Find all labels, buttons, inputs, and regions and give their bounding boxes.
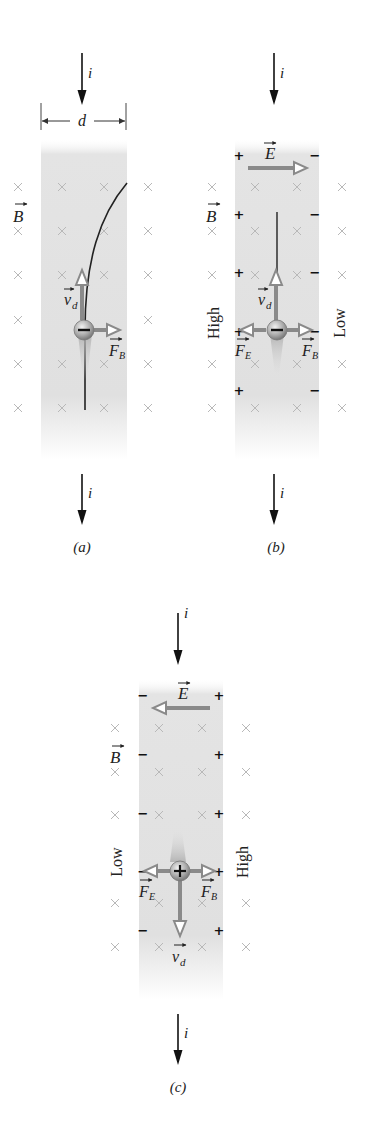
potential-label-high: High <box>205 307 223 339</box>
svg-text:F: F <box>301 342 312 359</box>
svg-text:−: − <box>310 265 321 280</box>
svg-text:+: + <box>234 148 245 163</box>
svg-text:B: B <box>206 207 217 226</box>
svg-text:i: i <box>280 485 284 501</box>
svg-text:+: + <box>214 688 225 703</box>
svg-text:v: v <box>172 948 180 965</box>
svg-text:i: i <box>88 485 92 501</box>
svg-text:+: + <box>214 806 225 821</box>
svg-text:E: E <box>264 144 276 163</box>
svg-text:+: + <box>214 747 225 762</box>
panel-b: i B <box>205 53 348 556</box>
potential-label-low: Low <box>108 847 125 877</box>
svg-text:−: − <box>310 148 321 163</box>
current-arrow-top: i <box>78 53 93 105</box>
charge-carrier-positive <box>170 861 190 881</box>
svg-text:+: + <box>234 207 245 222</box>
svg-text:B: B <box>312 350 318 361</box>
current-label: i <box>88 65 92 81</box>
svg-text:−: − <box>310 383 321 398</box>
svg-text:d: d <box>72 299 78 311</box>
svg-text:−: − <box>138 923 149 938</box>
svg-text:F: F <box>138 883 149 900</box>
svg-text:B: B <box>211 891 217 902</box>
current-arrow-bottom: i <box>174 1014 189 1065</box>
svg-text:F: F <box>200 883 211 900</box>
svg-text:i: i <box>184 605 188 621</box>
svg-text:B: B <box>110 748 121 767</box>
b-field-label: B <box>206 204 220 226</box>
panel-caption-b: (b) <box>267 539 285 556</box>
charge-carrier-negative <box>267 320 287 340</box>
svg-text:−: − <box>138 806 149 821</box>
b-field-label: B <box>13 204 27 226</box>
hall-effect-figure: i d <box>0 0 368 1121</box>
svg-text:+: + <box>234 265 245 280</box>
current-arrow-top: i <box>270 53 285 105</box>
svg-text:E: E <box>177 684 189 703</box>
panel-caption-c: (c) <box>170 1079 187 1096</box>
svg-text:−: − <box>138 747 149 762</box>
current-arrow-bottom: i <box>78 474 93 525</box>
current-arrow-top: i <box>174 605 189 665</box>
svg-text:B: B <box>13 207 24 226</box>
svg-text:F: F <box>108 342 119 359</box>
svg-text:−: − <box>138 688 149 703</box>
svg-text:B: B <box>119 350 125 361</box>
width-dimension: d <box>41 103 126 130</box>
svg-text:E: E <box>244 350 251 361</box>
b-field-label: B <box>110 746 124 767</box>
svg-text:i: i <box>280 65 284 81</box>
potential-label-high: High <box>234 846 252 878</box>
panel-caption-a: (a) <box>73 539 91 556</box>
electric-field-label: E <box>177 683 190 703</box>
svg-text:v: v <box>64 291 72 308</box>
svg-text:F: F <box>234 342 245 359</box>
potential-label-low: Low <box>331 308 348 338</box>
charge-carrier-negative <box>74 320 94 340</box>
svg-text:−: − <box>310 207 321 222</box>
svg-text:d: d <box>266 299 272 311</box>
width-label: d <box>78 112 87 129</box>
svg-text:+: + <box>234 383 245 398</box>
electric-field-label: E <box>264 143 276 163</box>
svg-text:v: v <box>258 291 266 308</box>
svg-text:d: d <box>180 956 186 968</box>
current-arrow-bottom: i <box>270 474 285 525</box>
svg-text:+: + <box>214 923 225 938</box>
svg-text:E: E <box>148 891 155 902</box>
svg-text:−: − <box>310 324 321 339</box>
svg-text:i: i <box>184 1025 188 1041</box>
panel-c: i B <box>108 605 252 1096</box>
panel-a: i d <box>13 53 152 556</box>
